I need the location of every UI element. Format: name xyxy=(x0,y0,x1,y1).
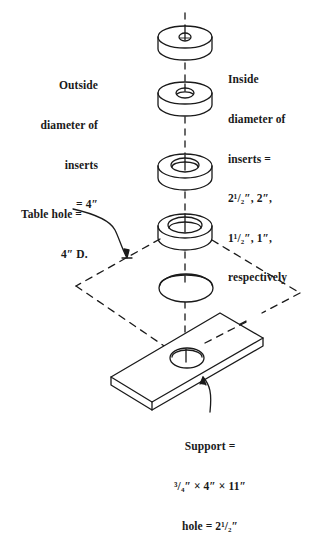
outside-line-1: Outside xyxy=(25,79,98,92)
outside-line-3: inserts xyxy=(25,159,98,172)
support-leader xyxy=(200,377,211,412)
insert-2 xyxy=(158,82,212,116)
inside-diameter-label: Inside diameter of inserts = 2¹/₂″, 2″, … xyxy=(228,47,287,298)
outside-line-2: diameter of xyxy=(25,119,98,132)
table-hole-line-1: Table hole = xyxy=(21,208,88,221)
insert-1 xyxy=(158,26,212,60)
table-hole-label: Table hole = 4″ D. xyxy=(21,182,88,274)
inside-line-1: Inside xyxy=(228,73,287,86)
insert-4 xyxy=(158,214,212,250)
support-block xyxy=(111,313,263,410)
insert-3 xyxy=(158,154,212,190)
inside-line-3: inserts = xyxy=(228,153,287,166)
support-line-2: ³/₄″ × 4″ × 11″ xyxy=(150,480,270,493)
table-hole xyxy=(159,274,213,302)
table-hole-line-2: 4″ D. xyxy=(21,248,88,261)
inside-line-6: respectively xyxy=(228,271,287,284)
inside-line-2: diameter of xyxy=(228,113,287,126)
inside-line-4: 2¹/₂″, 2″, xyxy=(228,192,287,205)
support-line-1: Support = xyxy=(150,440,270,453)
support-line-3: hole = 2¹/₂″ xyxy=(150,520,270,533)
inside-line-5: 1¹/₂″, 1″, xyxy=(228,232,287,245)
support-label: Support = ³/₄″ × 4″ × 11″ hole = 2¹/₂″ xyxy=(150,414,270,536)
